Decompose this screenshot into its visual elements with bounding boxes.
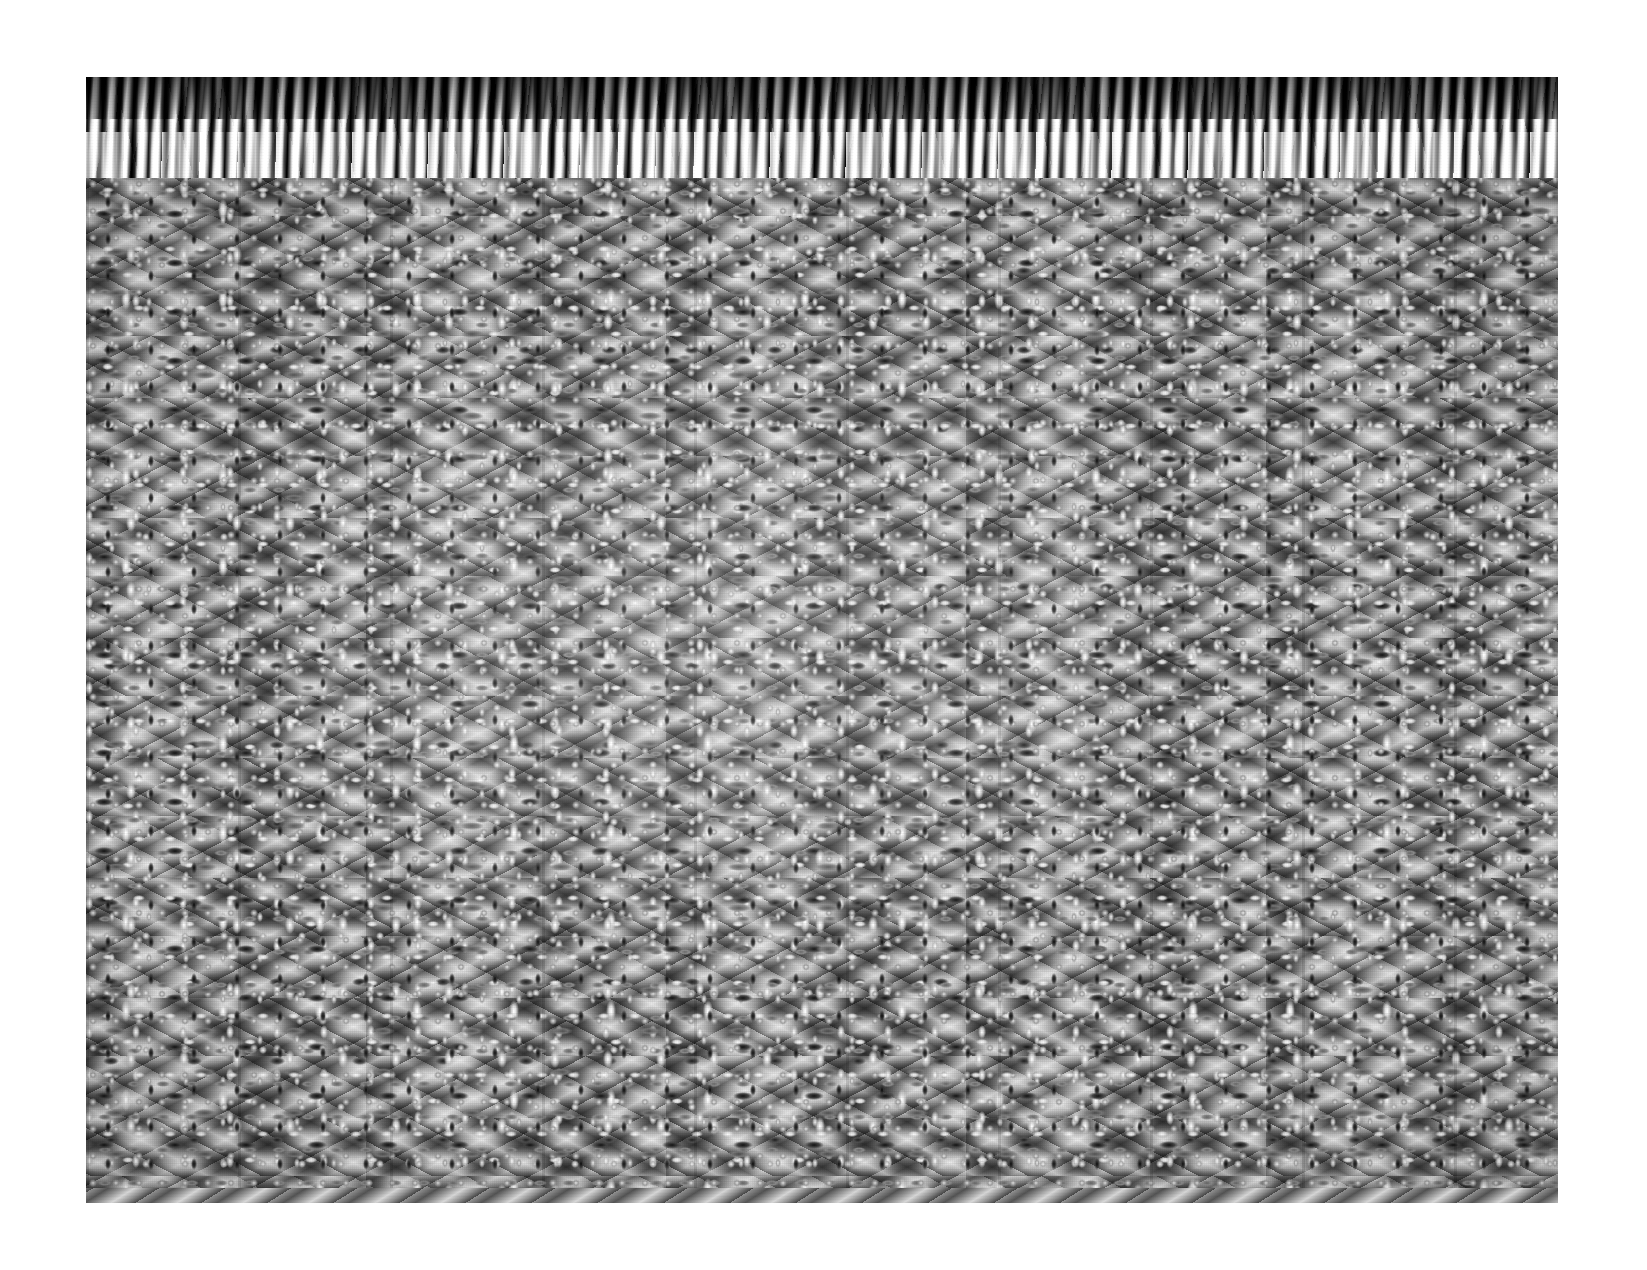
bottom-fringe-knot-row: [86, 1188, 1558, 1203]
top-fringe-region: [86, 77, 1558, 178]
bottom-fringe-region: [86, 1188, 1558, 1203]
lighting-vignette: [86, 178, 1558, 1188]
rug-photograph: [86, 77, 1558, 1203]
image-canvas: [0, 0, 1647, 1270]
top-fringe-bright-tips: [86, 132, 1558, 178]
pile-field-region: [86, 178, 1558, 1188]
top-fringe-knot-shadows: [86, 77, 1558, 119]
